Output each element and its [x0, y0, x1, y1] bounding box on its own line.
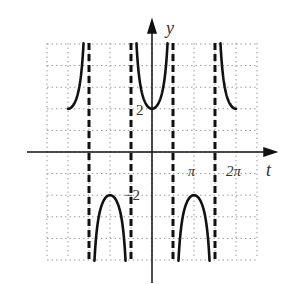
x-axis-label: t [266, 160, 272, 180]
x-axis-arrow-icon [264, 148, 276, 156]
secant-branch [220, 43, 236, 109]
y-tick-2: 2 [136, 102, 144, 118]
secant-graph: y t 2 −2 π 2π [0, 0, 292, 284]
secant-branch [68, 43, 84, 109]
x-tick-2pi: 2π [226, 163, 242, 179]
y-axis-arrow-icon [148, 20, 156, 33]
x-tick-pi: π [188, 164, 196, 179]
y-tick-neg2: −2 [124, 187, 140, 203]
axes [27, 20, 276, 283]
y-axis-label: y [164, 18, 174, 38]
